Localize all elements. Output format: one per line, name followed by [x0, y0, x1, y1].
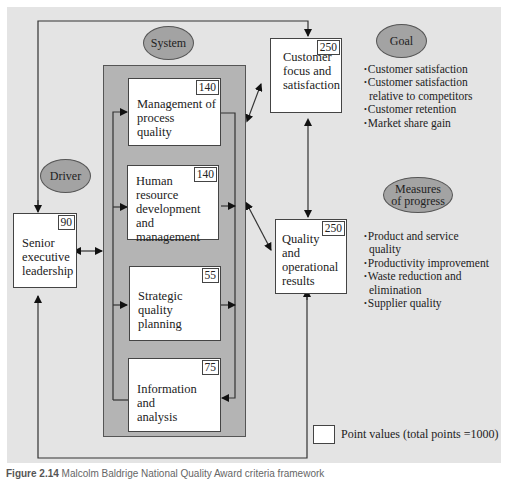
driver-ellipse: Driver [40, 159, 91, 193]
box-label-line: Senior [22, 236, 73, 250]
box-label-line: and [282, 246, 338, 260]
box-label-line: quality [138, 303, 182, 317]
process-quality-box: 140 Management of process quality [128, 78, 221, 146]
caption-label: Figure 2.14 [6, 468, 59, 479]
box-label-line: Information [137, 382, 197, 396]
points-badge: 75 [202, 360, 220, 375]
points-badge: 55 [202, 268, 220, 283]
goal-bullet: Customer satisfactionrelative to competi… [364, 76, 472, 103]
measures-bullet: Product and servicequality [364, 230, 489, 257]
box-label-line: results [282, 274, 338, 288]
box-label-line: Strategic [138, 289, 182, 303]
goal-bullet: Customer retention [364, 103, 472, 116]
system-label: System [151, 37, 186, 49]
goal-bullet: Customer satisfaction [364, 63, 472, 76]
measures-ellipse: Measures of progress [383, 177, 453, 213]
goal-label: Goal [390, 35, 413, 47]
points-badge: 90 [58, 215, 76, 230]
driver-label: Driver [50, 170, 81, 182]
box-label-line: quality [137, 125, 216, 139]
system-ellipse: System [143, 26, 194, 60]
bullet-text: quality [369, 243, 401, 255]
senior-leadership-box: 90 Senior executive leadership [13, 213, 77, 288]
legend-text: Point values (total points =1000) [341, 427, 498, 442]
box-label-line: operational [282, 260, 338, 274]
legend-swatch [313, 425, 335, 444]
measures-bullet-list: Product and servicequality Productivity … [364, 230, 489, 310]
box-label-line: planning [138, 317, 182, 331]
customer-focus-box: 250 Customer focus and satisfaction [270, 38, 342, 113]
box-label-line: Human [136, 174, 218, 188]
box-label-line: leadership [22, 264, 73, 278]
box-label-line: Management of [137, 97, 216, 111]
measures-bullet: Waste reduction andelimination [364, 270, 489, 297]
box-label-line: analysis [137, 410, 197, 424]
bullet-text: relative to competitors [369, 90, 472, 102]
caption-text: Malcolm Baldrige National Quality Award … [62, 468, 325, 479]
measures-label-line2: of progress [391, 195, 445, 207]
goal-bullet: Market share gain [364, 117, 472, 130]
bullet-text: Waste reduction and [368, 270, 462, 282]
figure-caption: Figure 2.14 Malcolm Baldrige National Qu… [6, 468, 324, 479]
human-resource-box: 140 Human resource development and manag… [127, 165, 219, 240]
box-label-line: Customer [283, 50, 340, 64]
box-label-line: Quality [282, 232, 338, 246]
box-label-line: and management [136, 216, 218, 244]
measures-bullet: Productivity improvement [364, 257, 489, 270]
goal-bullet-list: Customer satisfaction Customer satisfact… [364, 63, 472, 130]
box-label-line: and [137, 396, 197, 410]
box-label-line: development [136, 202, 218, 216]
bullet-text: elimination [369, 284, 421, 296]
points-badge: 140 [196, 80, 219, 95]
goal-ellipse: Goal [376, 24, 427, 58]
box-label-line: focus and [283, 64, 340, 78]
box-label-line: executive [22, 250, 73, 264]
bullet-text: Customer satisfaction [368, 76, 468, 88]
bullet-text: Product and service [368, 230, 459, 242]
box-label-line: satisfaction [283, 78, 340, 92]
measures-bullet: Supplier quality [364, 297, 489, 310]
box-label-line: process [137, 111, 216, 125]
information-analysis-box: 75 Information and analysis [128, 358, 221, 432]
strategic-planning-box: 55 Strategic quality planning [129, 266, 221, 341]
box-label-line: resource [136, 188, 218, 202]
quality-results-box: 250 Quality and operational results [275, 219, 347, 294]
